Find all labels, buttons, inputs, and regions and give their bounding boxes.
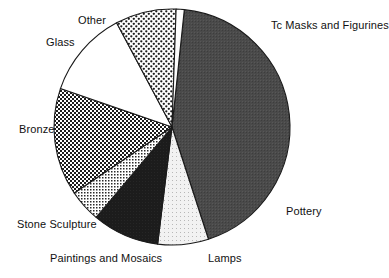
slice-label-stone-sculpture: Stone Sculpture	[17, 219, 97, 231]
slice-label-tc-masks-and-figurines: Tc Masks and Figurines	[271, 20, 389, 32]
slice-label-paintings-and-mosaics: Paintings and Mosaics	[50, 253, 162, 265]
slice-label-bronze: Bronze	[19, 124, 54, 136]
slice-label-glass: Glass	[46, 37, 75, 49]
slice-label-pottery: Pottery	[286, 206, 322, 218]
slice-label-lamps: Lamps	[208, 253, 242, 265]
slice-label-other: Other	[78, 15, 106, 27]
pie-slices-group	[54, 9, 290, 245]
